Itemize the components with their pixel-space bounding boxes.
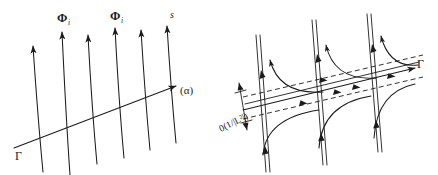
alpha-direction-label: (α) [180,84,193,97]
asymptote-group-1 [256,35,323,172]
trajectory-group [33,26,176,175]
left-panel-labels: Φ i Φ i s (α) Γ [15,9,193,163]
band-width-arrow-up [238,83,244,91]
hyperbola-2-lower [319,96,371,148]
phi-label-right: Φ [110,9,120,23]
phi-label-left: Φ [57,11,67,25]
band-inner-guide-line [245,62,419,104]
asymptote-group-3 [367,14,418,152]
trajectory-5 [141,30,150,150]
asymptote-group-2 [312,20,376,165]
band-flow-arrow-3 [352,84,361,90]
band-width-arrow-down [242,122,248,130]
figure-root: Φ i Φ i s (α) Γ [0,0,438,175]
hyperbola-1-lower [263,110,319,155]
s-label: s [170,9,174,20]
band-flow-arrow-2 [333,89,342,95]
phi-label-left-subscript: i [68,18,70,27]
flow-arrow-2-down [318,133,324,142]
gamma-label-left: Γ [15,149,22,163]
right-diagram-panel: Γ 0(1/|L²|) [219,0,438,175]
trajectory-2 [62,32,70,175]
trajectory-6 [167,26,176,143]
trajectory-3 [88,35,97,164]
trajectory-4 [115,28,124,158]
order-term-label: 0(1/|L²|) [219,111,250,135]
dashed-band-group [243,55,423,119]
band-flow-arrowheads [299,73,396,106]
hyperbola-2-upper [326,45,376,78]
flow-arrow-3-down [373,120,379,129]
gamma-label-right: Γ [417,57,424,71]
trajectory-1 [33,46,43,172]
phi-label-right-subscript: i [121,16,123,25]
left-diagram-panel: Φ i Φ i s (α) Γ [0,0,219,175]
